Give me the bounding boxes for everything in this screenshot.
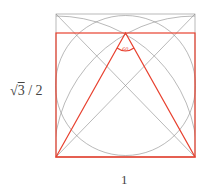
construction-lines [0,14,207,191]
width-label: 1 [121,172,128,188]
angle-label: 60 [122,46,129,52]
highlight-shapes: 60 [56,33,195,157]
height-label: √3 / 2 [10,83,43,99]
